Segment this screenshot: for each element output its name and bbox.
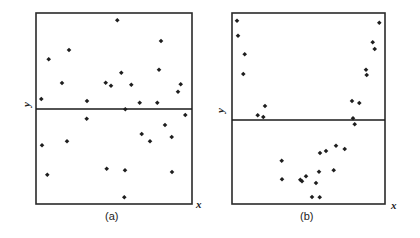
data-point (263, 104, 268, 109)
data-point (241, 72, 246, 77)
data-point (109, 83, 114, 88)
data-point (318, 151, 323, 156)
data-point (119, 70, 124, 75)
y-axis-label-b: y (214, 108, 226, 115)
data-point (148, 139, 153, 144)
data-point (103, 80, 108, 85)
data-point (67, 48, 72, 53)
data-point (176, 89, 181, 94)
data-point (342, 147, 347, 152)
data-points-b (235, 18, 382, 199)
data-point (129, 82, 134, 87)
data-point (163, 123, 168, 128)
data-point (364, 67, 369, 72)
data-point (304, 174, 309, 179)
data-point (317, 195, 322, 200)
data-point (39, 97, 44, 102)
residual-plots-figure: y x (a) y x (b) (0, 0, 420, 238)
data-point (65, 139, 70, 144)
plot-frame-b (232, 13, 385, 204)
data-point (334, 143, 339, 148)
data-point (155, 100, 160, 105)
data-point (310, 195, 315, 200)
data-point (115, 18, 120, 23)
data-point (317, 169, 322, 174)
data-point (157, 67, 162, 72)
data-point (364, 73, 369, 78)
data-point (242, 52, 247, 57)
data-point (123, 107, 128, 112)
data-point (183, 113, 188, 118)
data-point (169, 135, 174, 140)
data-point (178, 82, 183, 87)
data-point (84, 116, 89, 121)
data-point (122, 195, 127, 200)
data-point (324, 149, 329, 154)
data-point (357, 101, 362, 106)
data-point (85, 99, 90, 104)
data-point (137, 100, 142, 105)
data-point (159, 39, 164, 44)
data-point (123, 168, 128, 173)
x-axis-label-b: x (390, 199, 397, 211)
data-point (261, 115, 266, 120)
scatter-panel-a: y x (a) (20, 13, 202, 222)
panel-label-a: (a) (105, 210, 118, 222)
data-point (331, 168, 336, 173)
x-axis-label-a: x (195, 198, 202, 210)
data-point (236, 33, 241, 38)
data-point (40, 143, 45, 148)
y-axis-label-a: y (20, 102, 32, 109)
data-point (314, 181, 319, 186)
data-point (370, 40, 375, 45)
data-point (280, 177, 285, 182)
data-point (279, 158, 284, 163)
data-point (170, 170, 175, 175)
data-point (235, 18, 240, 23)
scatter-panel-b: y x (b) (214, 13, 397, 222)
data-point (255, 113, 260, 118)
data-point (60, 81, 65, 86)
data-point (139, 132, 144, 137)
data-point (104, 166, 109, 171)
data-point (372, 47, 377, 52)
data-point (46, 57, 51, 62)
data-point (377, 20, 382, 25)
panel-label-b: (b) (300, 210, 313, 222)
data-point (45, 172, 50, 177)
data-point (350, 99, 355, 104)
data-point (352, 122, 357, 127)
